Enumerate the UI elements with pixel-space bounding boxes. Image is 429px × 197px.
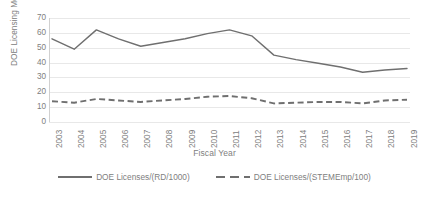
legend-label-stememp: DOE Licenses/(STEMEmp/100) — [254, 172, 371, 182]
x-tick-label: 2012 — [255, 130, 263, 148]
legend-item-rd: DOE Licenses/(RD/1000) — [58, 172, 190, 182]
x-tick-label: 2004 — [78, 130, 86, 148]
x-tick-label: 2005 — [100, 130, 108, 148]
x-tick-label: 2014 — [300, 130, 308, 148]
line-chart: DOE Licensing Meetrics 706050403020100 2… — [0, 0, 429, 197]
x-tick-label: 2008 — [166, 130, 174, 148]
x-tick-label: 2009 — [189, 130, 197, 148]
gridline — [49, 122, 410, 123]
y-tick-label: 70 — [37, 14, 46, 22]
series-line-rd — [52, 30, 407, 72]
y-axis-tick-labels: 706050403020100 — [22, 0, 46, 197]
x-tick-label: 2011 — [233, 130, 241, 148]
x-axis-tick-labels: 2003200420052006200720082009201020112012… — [49, 124, 410, 150]
x-tick-label: 2007 — [144, 130, 152, 148]
series-line-stememp — [52, 96, 407, 103]
x-tick-label: 2018 — [388, 130, 396, 148]
x-tick-label: 2016 — [344, 130, 352, 148]
plot-area — [49, 18, 410, 122]
x-axis-title: Fiscal Year — [0, 148, 429, 158]
y-tick-label: 20 — [37, 88, 46, 96]
x-tick-label: 2019 — [411, 130, 419, 148]
x-tick-label: 2017 — [366, 130, 374, 148]
chart-legend: DOE Licenses/(RD/1000) DOE Licenses/(STE… — [0, 172, 429, 182]
series-svg — [49, 18, 410, 122]
legend-swatch-dashed-icon — [216, 173, 250, 181]
x-tick-label: 2003 — [56, 130, 64, 148]
x-tick-label: 2010 — [211, 130, 219, 148]
y-tick-label: 40 — [37, 59, 46, 67]
x-tick-label: 2013 — [277, 130, 285, 148]
legend-label-rd: DOE Licenses/(RD/1000) — [96, 172, 190, 182]
legend-item-stememp: DOE Licenses/(STEMEmp/100) — [216, 172, 371, 182]
y-tick-label: 50 — [37, 44, 46, 52]
y-tick-label: 10 — [37, 103, 46, 111]
legend-swatch-solid-icon — [58, 173, 92, 181]
y-tick-label: 0 — [41, 118, 46, 126]
x-tick-label: 2015 — [322, 130, 330, 148]
y-tick-label: 60 — [37, 29, 46, 37]
y-tick-label: 30 — [37, 73, 46, 81]
y-axis-title: DOE Licensing Meetrics — [8, 0, 22, 80]
x-tick-label: 2006 — [122, 130, 130, 148]
